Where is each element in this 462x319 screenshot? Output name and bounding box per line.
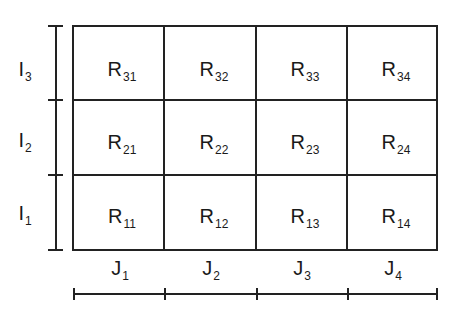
i-axis-tick xyxy=(48,25,63,27)
cell-r12: R12 xyxy=(200,206,229,230)
col-label-j1: J1 xyxy=(111,258,129,282)
row-label-i3: I3 xyxy=(18,59,31,83)
grid-col-divider xyxy=(163,25,165,251)
cell-r21: R21 xyxy=(108,132,137,156)
cell-r13: R13 xyxy=(291,206,320,230)
row-label-i2: I2 xyxy=(18,130,31,154)
cell-r11: R11 xyxy=(108,206,136,230)
grid-border-right xyxy=(436,25,438,251)
grid-row-divider xyxy=(73,174,438,176)
row-label-i1: I1 xyxy=(18,203,31,227)
cell-r32: R32 xyxy=(200,59,229,83)
col-label-j3: J3 xyxy=(293,258,311,282)
j-axis-tick xyxy=(164,288,166,300)
i-axis-tick xyxy=(48,99,63,101)
cell-r22: R22 xyxy=(200,132,229,156)
grid-border-left xyxy=(72,25,74,251)
grid-col-divider xyxy=(255,25,257,251)
grid-diagram: I3 I2 I1 R31 R32 R33 R34 R21 R22 R23 R24… xyxy=(0,0,462,319)
j-axis-tick xyxy=(256,288,258,300)
cell-r33: R33 xyxy=(291,59,320,83)
j-axis-tick xyxy=(347,288,349,300)
cell-r23: R23 xyxy=(291,132,320,156)
j-axis-tick xyxy=(73,288,75,300)
col-label-j4: J4 xyxy=(384,258,402,282)
i-axis-tick xyxy=(48,249,63,251)
grid-row-divider xyxy=(73,99,438,101)
i-axis-tick xyxy=(48,174,63,176)
cell-r34: R34 xyxy=(382,59,411,83)
cell-r14: R14 xyxy=(382,206,411,230)
i-axis-line xyxy=(55,26,57,250)
cell-r24: R24 xyxy=(382,132,411,156)
grid-col-divider xyxy=(346,25,348,251)
cell-r31: R31 xyxy=(108,59,137,83)
col-label-j2: J2 xyxy=(202,258,220,282)
j-axis-tick xyxy=(436,288,438,300)
